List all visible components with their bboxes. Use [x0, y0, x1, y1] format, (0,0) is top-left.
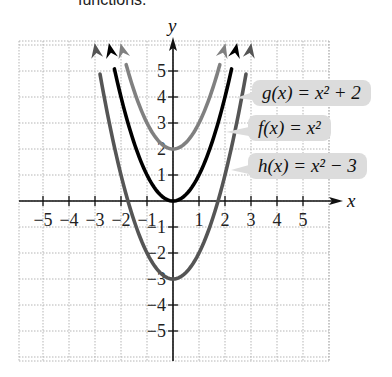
legend-g: g(x) = x² + 2 — [252, 80, 371, 106]
x-tick-label: 4 — [273, 210, 282, 230]
y-tick-label: −5 — [147, 321, 166, 341]
y-tick-label: −1 — [147, 217, 166, 237]
x-tick-label: 3 — [247, 210, 256, 230]
y-tick-label: −4 — [147, 295, 166, 315]
x-tick-label: 1 — [195, 210, 204, 230]
x-tick-label: −2 — [111, 210, 130, 230]
x-tick-label: 5 — [299, 210, 308, 230]
x-tick-label: −3 — [85, 210, 104, 230]
y-tick-label: 1 — [157, 165, 166, 185]
x-tick-label: 2 — [221, 210, 230, 230]
function-plot: xy−5−4−3−2−112345−5−4−3−2−112345 — [0, 0, 392, 377]
axes: xy−5−4−3−2−112345−5−4−3−2−112345 — [19, 15, 356, 361]
legend-f: f(x) = x² — [248, 115, 331, 141]
y-tick-label: 5 — [157, 61, 166, 81]
legend-h: h(x) = x² − 3 — [248, 153, 367, 179]
y-tick-label: 4 — [157, 87, 166, 107]
y-axis-label: y — [166, 15, 177, 36]
x-tick-label: −4 — [59, 210, 78, 230]
x-tick-label: −5 — [33, 210, 52, 230]
y-tick-label: 3 — [157, 113, 166, 133]
y-tick-label: −3 — [147, 269, 166, 289]
x-axis-label: x — [346, 190, 356, 211]
